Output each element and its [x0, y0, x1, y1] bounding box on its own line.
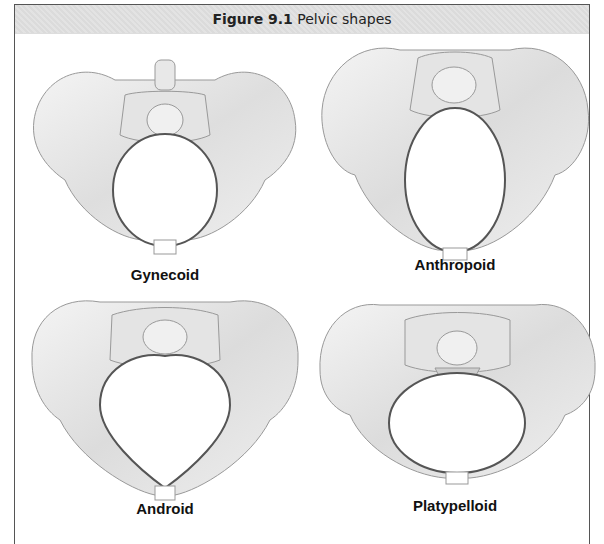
gynecoid-pelvis-illustration	[20, 40, 310, 280]
android-label: Android	[20, 500, 310, 517]
anthropoid-pelvis-illustration	[310, 30, 600, 270]
panel-gynecoid: Gynecoid	[20, 40, 310, 290]
platypelloid-pelvis-illustration	[310, 290, 600, 520]
panel-anthropoid: Anthropoid	[310, 30, 600, 280]
figure-title: Pelvic shapes	[297, 11, 391, 27]
platypelloid-label: Platypelloid	[310, 497, 600, 514]
panel-android: Android	[20, 290, 310, 540]
gynecoid-label: Gynecoid	[20, 266, 310, 283]
panel-platypelloid: Platypelloid	[310, 290, 600, 540]
figure-number: Figure 9.1	[212, 11, 292, 27]
android-pelvis-illustration	[20, 290, 310, 520]
anthropoid-label: Anthropoid	[310, 256, 600, 273]
